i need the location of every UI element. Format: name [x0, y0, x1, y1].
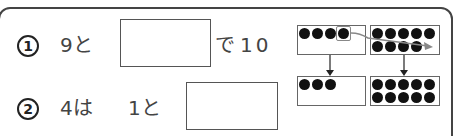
move-arrowhead-icon — [424, 42, 433, 50]
down-arrowhead-left-icon — [326, 70, 334, 76]
down-arrowhead-right-icon — [400, 70, 408, 76]
move-arrow-icon — [351, 33, 428, 46]
diagram-arrows — [0, 0, 463, 136]
